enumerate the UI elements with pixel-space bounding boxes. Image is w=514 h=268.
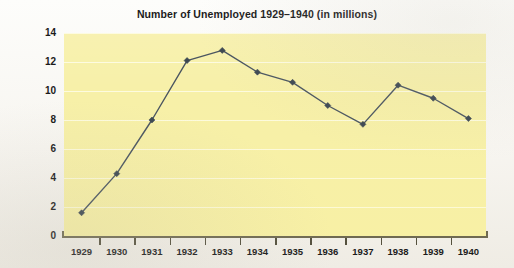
x-axis-tick-label: 1932 bbox=[170, 246, 205, 257]
x-axis-tick bbox=[240, 238, 242, 245]
y-axis-tick-label: 4 bbox=[26, 172, 56, 183]
x-axis-tick bbox=[134, 238, 136, 245]
x-axis-tick bbox=[170, 238, 172, 245]
x-axis-left-cap bbox=[62, 231, 64, 238]
y-axis-tick-label: 2 bbox=[26, 201, 56, 212]
y-axis-tick-label: 10 bbox=[26, 85, 56, 96]
x-axis-tick bbox=[205, 238, 207, 245]
x-axis-tick-label: 1939 bbox=[416, 246, 451, 257]
x-axis-tick bbox=[381, 238, 383, 245]
y-axis-tick-label: 14 bbox=[26, 27, 56, 38]
x-axis-tick-label: 1940 bbox=[451, 246, 486, 257]
x-axis-right-cap bbox=[486, 231, 488, 238]
x-axis-tick-label: 1933 bbox=[205, 246, 240, 257]
x-axis-tick-label: 1931 bbox=[134, 246, 169, 257]
chart-title: Number of Unemployed 1929–1940 (in milli… bbox=[0, 8, 514, 20]
x-axis-tick bbox=[345, 238, 347, 245]
chart-figure: Number of Unemployed 1929–1940 (in milli… bbox=[0, 0, 514, 268]
data-point-marker: 1940: 8.1 bbox=[465, 116, 471, 122]
x-axis-tick bbox=[416, 238, 418, 245]
series-line bbox=[82, 50, 469, 212]
y-axis-tick-label: 12 bbox=[26, 56, 56, 67]
x-axis-tick-label: 1929 bbox=[64, 246, 99, 257]
y-axis-tick-label: 0 bbox=[26, 230, 56, 241]
x-axis-tick-label: 1935 bbox=[275, 246, 310, 257]
x-axis-tick bbox=[310, 238, 312, 245]
x-axis-tick-label: 1930 bbox=[99, 246, 134, 257]
x-axis-tick bbox=[275, 238, 277, 245]
data-point-marker: 1939: 9.5 bbox=[430, 95, 436, 101]
x-axis-tick bbox=[451, 238, 453, 245]
x-axis-tick-label: 1934 bbox=[240, 246, 275, 257]
plot-area: 1929: 1.61930: 4.31931: 81932: 12.11933:… bbox=[64, 33, 486, 236]
x-axis-tick-label: 1936 bbox=[310, 246, 345, 257]
data-point-marker: 1932: 12.1 bbox=[184, 58, 190, 64]
y-axis-tick-label: 6 bbox=[26, 143, 56, 154]
x-axis-tick bbox=[99, 238, 101, 245]
x-axis-tick-label: 1938 bbox=[381, 246, 416, 257]
x-axis-tick-label: 1937 bbox=[345, 246, 380, 257]
line-series-unemployed: 1929: 1.61930: 4.31931: 81932: 12.11933:… bbox=[64, 33, 486, 236]
y-axis-tick-label: 8 bbox=[26, 114, 56, 125]
